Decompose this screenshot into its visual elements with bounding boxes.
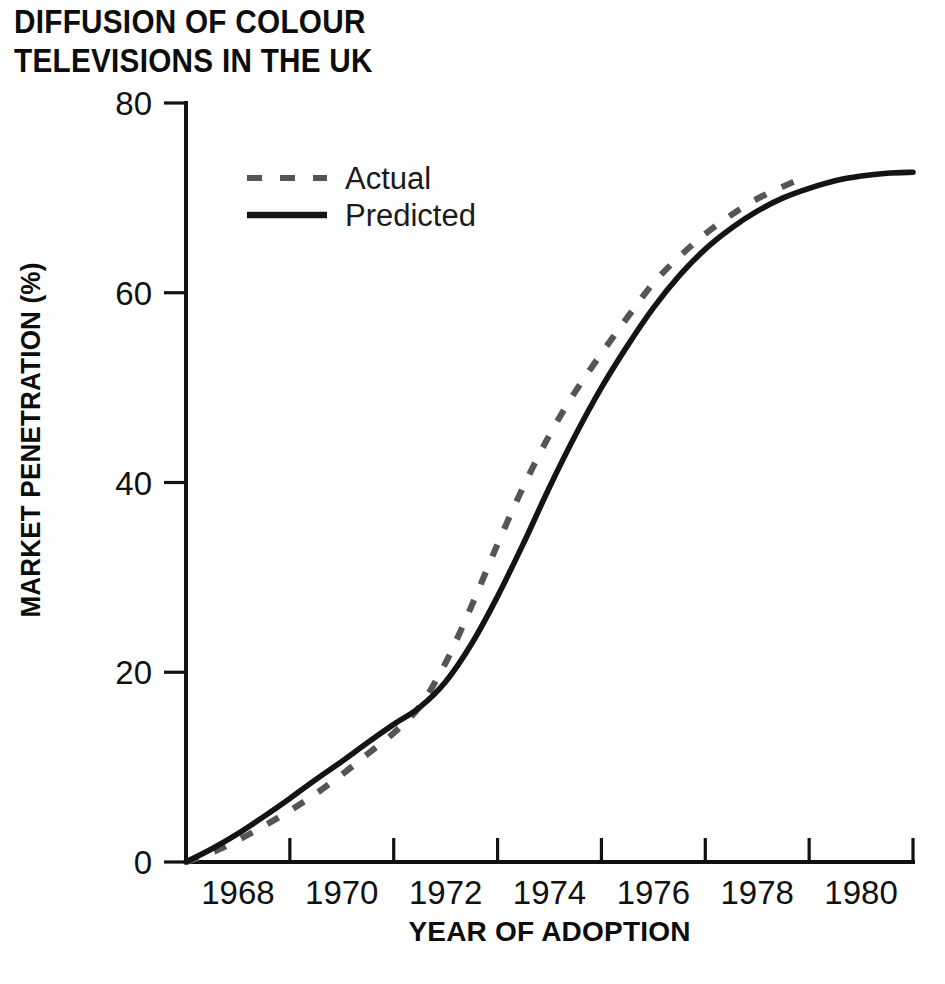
y-tick-label: 60 — [115, 275, 152, 312]
x-tick-label: 1968 — [201, 874, 274, 911]
plot-area: 020406080 1968197019721974197619781980 A… — [0, 0, 945, 984]
y-axis-ticks: 020406080 — [115, 85, 186, 881]
y-tick-label: 0 — [134, 844, 152, 881]
legend-label-actual: Actual — [345, 161, 431, 196]
x-tick-label: 1976 — [617, 874, 690, 911]
x-tick-label: 1978 — [721, 874, 794, 911]
x-tick-label: 1974 — [513, 874, 586, 911]
legend-label-predicted: Predicted — [345, 198, 476, 233]
y-tick-label: 80 — [115, 85, 152, 122]
data-series — [186, 172, 913, 862]
chart-figure: DIFFUSION OF COLOUR TELEVISIONS IN THE U… — [0, 0, 945, 984]
series-line-actual — [186, 175, 809, 862]
x-axis-ticks: 1968197019721974197619781980 — [201, 838, 898, 911]
x-tick-label: 1970 — [305, 874, 378, 911]
x-tick-label: 1972 — [409, 874, 482, 911]
x-tick-label: 1980 — [824, 874, 897, 911]
y-tick-label: 20 — [115, 654, 152, 691]
y-tick-label: 40 — [115, 465, 152, 502]
chart-legend: ActualPredicted — [247, 161, 476, 233]
series-line-predicted — [186, 172, 913, 862]
